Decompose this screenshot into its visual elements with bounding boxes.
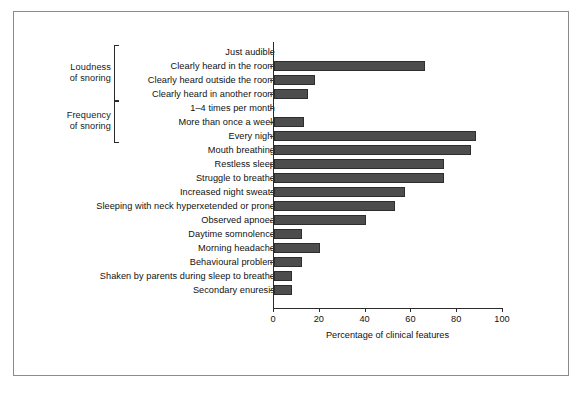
- x-axis-tick: [456, 308, 457, 312]
- x-axis-tick-label: 80: [451, 314, 461, 324]
- category-label: Sleeping with neck hyperxetended or pron…: [96, 199, 275, 213]
- bar-row: Observed apnoea: [14, 213, 570, 227]
- bar-row: Clearly heard in another room: [14, 87, 570, 101]
- bar-secondary-enuresis: [274, 285, 292, 295]
- category-label: Secondary enuresis: [193, 283, 275, 297]
- bar-clearly-heard-in-another-room: [274, 89, 308, 99]
- category-label: More than once a week: [178, 115, 275, 129]
- bar-shaken-by-parents-during-sleep-to-breathe: [274, 271, 292, 281]
- bar-mouth-breathing: [274, 145, 471, 155]
- bar-row: Mouth breathing: [14, 143, 570, 157]
- category-label: Clearly heard in the room: [171, 59, 275, 73]
- x-axis-tick: [319, 308, 320, 312]
- bar-morning-headache: [274, 243, 320, 253]
- category-label: Clearly heard outside the room: [148, 73, 275, 87]
- bar-increased-night-sweats: [274, 187, 405, 197]
- category-label: Observed apnoea: [201, 213, 275, 227]
- figure-frame: Loudness of snoring Frequency of snoring…: [13, 11, 569, 376]
- y-axis-line: [273, 42, 274, 308]
- category-label: Increased night sweats: [180, 185, 275, 199]
- bar-row: Clearly heard in the room: [14, 59, 570, 73]
- category-label: Mouth breathing: [208, 143, 275, 157]
- bar-chart: Loudness of snoring Frequency of snoring…: [14, 12, 570, 377]
- bar-behavioural-problem: [274, 257, 302, 267]
- bar-row: Shaken by parents during sleep to breath…: [14, 269, 570, 283]
- category-label: Restless sleep: [215, 157, 275, 171]
- bar-observed-apnoea: [274, 215, 366, 225]
- x-axis-line: [273, 308, 502, 309]
- category-label: Morning headache: [198, 241, 275, 255]
- category-label: Behavioural problem: [190, 255, 275, 269]
- bar-row: Restless sleep: [14, 157, 570, 171]
- bar-row: Morning headache: [14, 241, 570, 255]
- x-axis-tick: [273, 308, 274, 312]
- x-axis-tick: [502, 308, 503, 312]
- category-label: Daytime somnolence: [188, 227, 275, 241]
- category-label: Shaken by parents during sleep to breath…: [100, 269, 275, 283]
- x-axis-tick: [365, 308, 366, 312]
- x-axis-tick-label: 20: [314, 314, 324, 324]
- bar-row: Behavioural problem: [14, 255, 570, 269]
- bar-more-than-once-a-week: [274, 117, 304, 127]
- category-label: Clearly heard in another room: [152, 87, 275, 101]
- bar-restless-sleep: [274, 159, 444, 169]
- category-label: Every night: [228, 129, 275, 143]
- bar-struggle-to-breathe: [274, 173, 444, 183]
- bar-row: Daytime somnolence: [14, 227, 570, 241]
- x-axis-tick-label: 100: [494, 314, 509, 324]
- x-axis-tick-label: 60: [405, 314, 415, 324]
- bar-row: Sleeping with neck hyperxetended or pron…: [14, 199, 570, 213]
- bar-every-night: [274, 131, 476, 141]
- category-label: Struggle to breathe: [196, 171, 275, 185]
- x-axis-tick-label: 40: [359, 314, 369, 324]
- bar-row: Just audible: [14, 45, 570, 59]
- x-axis-tick: [410, 308, 411, 312]
- bar-row: Clearly heard outside the room: [14, 73, 570, 87]
- bar-row: Struggle to breathe: [14, 171, 570, 185]
- x-axis-tick-label: 0: [270, 314, 275, 324]
- bar-row: Every night: [14, 129, 570, 143]
- x-axis-title: Percentage of clinical features: [273, 330, 502, 340]
- bar-clearly-heard-outside-the-room: [274, 75, 315, 85]
- bar-clearly-heard-in-the-room: [274, 61, 425, 71]
- bar-row: More than once a week: [14, 115, 570, 129]
- bar-row: Increased night sweats: [14, 185, 570, 199]
- category-label: 1–4 times per month: [190, 101, 275, 115]
- bar-row: Secondary enuresis: [14, 283, 570, 297]
- category-label: Just audible: [225, 45, 275, 59]
- bar-daytime-somnolence: [274, 229, 302, 239]
- bar-row: 1–4 times per month: [14, 101, 570, 115]
- bar-sleeping-with-neck-hyperextended-or-prone: [274, 201, 395, 211]
